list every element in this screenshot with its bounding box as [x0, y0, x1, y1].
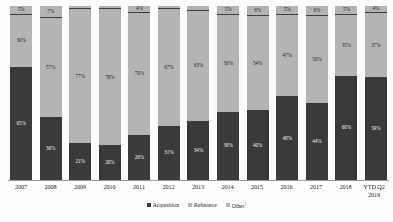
bar-segment-refinance: 70%	[128, 13, 150, 135]
bar-segment-acquisition: 40%	[247, 110, 269, 180]
bar-value-label: 44%	[312, 139, 321, 144]
category-label-line: 2008	[40, 183, 62, 191]
bar-segment-other: 5%	[10, 6, 32, 15]
bar-column: 2%67%31%	[158, 6, 180, 180]
bar-value-label: 56%	[223, 61, 232, 66]
stacked-bar-chart: 5%30%65%7%57%36%2%77%21%2%78%20%4%70%26%…	[0, 0, 393, 222]
bar-column: 2%78%20%	[99, 6, 121, 180]
bar-value-label: 60%	[342, 125, 351, 130]
bar-column: 6%50%44%	[306, 6, 328, 180]
bar-segment-acquisition: 31%	[158, 126, 180, 180]
category-label-line: YTD Q2	[361, 183, 387, 191]
bar-value-label: 34%	[194, 148, 203, 153]
bar-value-label: 31%	[164, 150, 173, 155]
bar-value-label: 59%	[371, 126, 380, 131]
bar-segment-refinance: 63%	[187, 11, 209, 121]
bar-column: 4%37%59%	[365, 6, 387, 180]
bar-segment-refinance: 57%	[40, 18, 62, 117]
bar-segment-acquisition: 48%	[276, 96, 298, 180]
bar-value-label: 47%	[283, 53, 292, 58]
bar-value-label: 4%	[373, 6, 380, 11]
bar-segment-refinance: 56%	[217, 15, 239, 112]
bar-segment-refinance: 30%	[10, 15, 32, 67]
bar-segment-acquisition: 21%	[69, 143, 91, 180]
bar-column: 5%56%39%	[217, 6, 239, 180]
bar-segment-other: 4%	[128, 6, 150, 13]
bar-value-label: 63%	[194, 63, 203, 68]
bar-segment-other: 5%	[217, 6, 239, 15]
category-axis-line	[8, 180, 389, 181]
legend-swatch-icon	[147, 203, 151, 207]
category-label-line: 2009	[69, 183, 91, 191]
legend-label: Acquisition	[153, 202, 179, 208]
bar-segment-refinance: 54%	[247, 16, 269, 110]
bar-column: 5%47%48%	[276, 6, 298, 180]
bar-value-label: 35%	[342, 43, 351, 48]
bar-column: 5%35%60%	[335, 6, 357, 180]
bar-segment-acquisition: 44%	[306, 103, 328, 180]
category-label-line: 2016	[276, 183, 298, 191]
category-label-line: 2011	[128, 183, 150, 191]
bar-value-label: 70%	[135, 71, 144, 76]
chart-plot-area: 5%30%65%7%57%36%2%77%21%2%78%20%4%70%26%…	[10, 6, 387, 180]
bar-value-label: 77%	[76, 74, 85, 79]
bar-value-label: 6%	[313, 8, 320, 13]
category-label-line: 2014	[217, 183, 239, 191]
bar-segment-refinance: 67%	[158, 9, 180, 126]
legend-item[interactable]: Refinance	[188, 202, 217, 208]
bar-segment-acquisition: 39%	[217, 112, 239, 180]
bar-column: 6%54%40%	[247, 6, 269, 180]
legend-item[interactable]: Acquisition	[147, 202, 179, 208]
category-label-line: 2015	[246, 183, 268, 191]
bar-column: 7%57%36%	[40, 6, 62, 180]
legend-footnote-marker: 1	[244, 202, 246, 206]
category-label-line: 2017	[305, 183, 327, 191]
legend-item[interactable]: Other1	[226, 201, 247, 209]
bar-value-label: 78%	[105, 75, 114, 80]
bar-value-label: 6%	[254, 8, 261, 13]
bar-segment-acquisition: 36%	[40, 117, 62, 180]
category-label-line: 2010	[99, 183, 121, 191]
bar-segment-acquisition: 65%	[10, 67, 32, 180]
bar-value-label: 26%	[135, 155, 144, 160]
bar-column: 5%30%65%	[10, 6, 32, 180]
bar-segment-acquisition: 60%	[335, 76, 357, 180]
chart-legend: AcquisitionRefinanceOther1	[0, 201, 393, 209]
bar-segment-refinance: 77%	[69, 9, 91, 143]
bar-segment-other: 7%	[40, 6, 62, 18]
bar-segment-refinance: 47%	[276, 15, 298, 97]
bar-value-label: 30%	[16, 38, 25, 43]
bar-segment-other: 6%	[247, 6, 269, 16]
category-label-line: 2018	[335, 183, 357, 191]
category-label-line: 2019	[361, 191, 387, 199]
bar-value-label: 50%	[312, 57, 321, 62]
legend-swatch-icon	[188, 203, 192, 207]
bar-value-label: 5%	[343, 7, 350, 12]
bar-column: 4%70%26%	[128, 6, 150, 180]
bar-value-label: 54%	[253, 61, 262, 66]
bar-segment-refinance: 35%	[335, 15, 357, 76]
bar-value-label: 37%	[371, 43, 380, 48]
bar-segment-acquisition: 26%	[128, 135, 150, 180]
bar-value-label: 39%	[223, 143, 232, 148]
bar-value-label: 4%	[136, 6, 143, 11]
bar-segment-refinance: 37%	[365, 13, 387, 77]
bar-value-label: 7%	[47, 9, 54, 14]
bar-segment-acquisition: 59%	[365, 77, 387, 180]
legend-swatch-icon	[226, 203, 230, 207]
bar-column: 3%63%34%	[187, 6, 209, 180]
bar-segment-other: 5%	[335, 6, 357, 15]
bar-value-label: 48%	[283, 136, 292, 141]
bar-segment-other: 5%	[276, 6, 298, 15]
bar-value-label: 36%	[46, 146, 55, 151]
bar-value-label: 21%	[76, 159, 85, 164]
bar-segment-refinance: 50%	[306, 16, 328, 103]
bar-value-label: 67%	[164, 65, 173, 70]
bar-segment-acquisition: 34%	[187, 121, 209, 180]
bar-segment-other: 6%	[306, 6, 328, 16]
category-label-line: 2012	[158, 183, 180, 191]
bar-value-label: 5%	[284, 7, 291, 12]
bar-value-label: 20%	[105, 160, 114, 165]
bar-value-label: 65%	[16, 121, 25, 126]
bar-segment-other: 4%	[365, 6, 387, 13]
